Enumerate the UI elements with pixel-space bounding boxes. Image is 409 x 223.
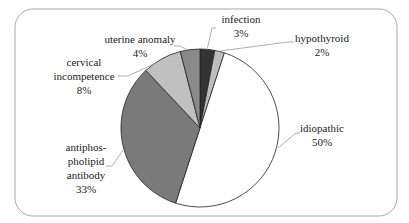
label-infection: infection xyxy=(221,13,261,25)
label-uterine: uterine anomaly xyxy=(104,33,176,45)
label-antiphospholipid-1: antiphos- xyxy=(66,141,107,153)
label-antiphospholipid-3: antibody xyxy=(67,169,106,181)
label-infection-pct: 3% xyxy=(234,27,249,39)
label-uterine-pct: 4% xyxy=(133,47,148,59)
label-idiopathic: idiopathic xyxy=(300,122,344,134)
label-hypothyroid: hypothyroid xyxy=(295,32,349,44)
label-antiphospholipid-pct: 33% xyxy=(76,183,96,195)
label-cervical-pct: 8% xyxy=(77,84,92,96)
pie-chart: infection 3% hypothyroid 2% idiopathic 5… xyxy=(0,0,409,223)
label-idiopathic-pct: 50% xyxy=(312,136,332,148)
label-hypothyroid-pct: 2% xyxy=(315,46,330,58)
label-antiphospholipid-2: pholipid xyxy=(68,155,105,167)
pie-slices xyxy=(121,49,279,207)
label-cervical-2: incompetence xyxy=(53,70,114,82)
label-cervical-1: cervical xyxy=(67,56,102,68)
